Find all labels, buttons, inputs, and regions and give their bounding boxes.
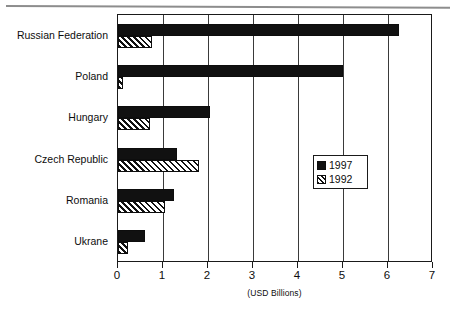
plot-area	[118, 15, 431, 261]
bar-group	[118, 106, 433, 130]
bar-1997	[118, 24, 399, 36]
x-tick-mark	[387, 262, 388, 268]
bar-1992	[118, 160, 199, 172]
bar-group	[118, 230, 433, 254]
x-tick-label: 0	[107, 269, 127, 281]
x-tick-label: 4	[287, 269, 307, 281]
horizontal-bar-chart: Russian FederationPolandHungaryCzech Rep…	[0, 0, 453, 314]
x-tick-mark	[297, 262, 298, 268]
legend-label-1992: 1992	[329, 174, 352, 185]
bar-1997	[118, 189, 174, 201]
category-label: Poland	[0, 70, 108, 82]
gridline	[208, 15, 209, 261]
bar-group	[118, 65, 433, 89]
bar-1997	[118, 148, 177, 160]
bar-1997	[118, 65, 343, 77]
bar-1992	[118, 242, 128, 254]
x-tick-mark	[117, 262, 118, 268]
gridline	[163, 15, 164, 261]
category-label: Russian Federation	[0, 29, 108, 41]
bar-group	[118, 148, 433, 172]
category-label: Romania	[0, 194, 108, 206]
bar-1997	[118, 230, 145, 242]
category-label: Ukrane	[0, 235, 108, 247]
x-tick-label: 2	[197, 269, 217, 281]
gridline	[253, 15, 254, 261]
legend-label-1997: 1997	[329, 160, 352, 171]
plot-frame	[117, 14, 432, 262]
x-axis-title: (USD Billions)	[117, 288, 432, 298]
category-label: Hungary	[0, 111, 108, 123]
chart-legend: 1997 1992	[313, 155, 368, 189]
x-tick-mark	[432, 262, 433, 268]
legend-entry-1997: 1997	[317, 158, 364, 172]
category-axis-labels: Russian FederationPolandHungaryCzech Rep…	[0, 14, 112, 262]
x-tick-label: 5	[332, 269, 352, 281]
x-tick-mark	[207, 262, 208, 268]
bar-1992	[118, 36, 152, 48]
bar-1997	[118, 106, 210, 118]
x-tick-label: 6	[377, 269, 397, 281]
legend-entry-1992: 1992	[317, 172, 364, 186]
bar-1992	[118, 201, 165, 213]
bar-group	[118, 24, 433, 48]
x-tick-label: 1	[152, 269, 172, 281]
gridline	[388, 15, 389, 261]
x-tick-label: 7	[422, 269, 442, 281]
category-label: Czech Republic	[0, 153, 108, 165]
gridline	[343, 15, 344, 261]
hatched-swatch	[317, 175, 326, 184]
bar-group	[118, 189, 433, 213]
x-tick-mark	[342, 262, 343, 268]
gridline	[298, 15, 299, 261]
bar-1992	[118, 77, 123, 89]
x-tick-label: 3	[242, 269, 262, 281]
x-tick-mark	[162, 262, 163, 268]
bar-1992	[118, 118, 150, 130]
solid-black-swatch	[317, 161, 326, 170]
x-tick-mark	[252, 262, 253, 268]
x-axis-ticks: 01234567	[117, 262, 432, 308]
